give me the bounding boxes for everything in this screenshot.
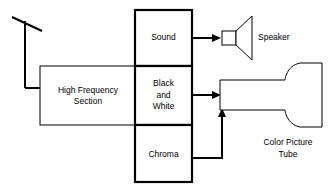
speaker-horn <box>236 16 252 60</box>
picture-tube-label-line1: Color Picture <box>263 137 312 147</box>
high-frequency-label-line1: High Frequency <box>58 85 119 95</box>
tv-receiver-block-diagram: High Frequency Section Sound Black and W… <box>0 0 336 192</box>
antenna-crossbar <box>12 17 42 31</box>
diagram-canvas: High Frequency Section Sound Black and W… <box>0 0 336 192</box>
black-and-white-to-tube-arrow <box>192 91 221 99</box>
black-and-white-label-line2: and <box>156 90 170 100</box>
chroma-to-tube-arrow <box>192 108 226 158</box>
high-frequency-label-line2: Section <box>74 96 103 106</box>
picture-tube-label-line2: Tube <box>278 149 297 159</box>
chroma-label: Chroma <box>148 149 179 159</box>
black-and-white-label-line1: Black <box>153 78 175 88</box>
speaker-icon <box>222 16 252 60</box>
antenna-icon <box>12 17 42 88</box>
speaker-label: Speaker <box>258 32 290 42</box>
sound-to-speaker-arrow <box>192 34 221 42</box>
black-and-white-label-line3: White <box>153 101 175 111</box>
speaker-body <box>222 31 236 45</box>
sound-label: Sound <box>151 32 176 42</box>
color-picture-tube-icon <box>220 63 322 127</box>
picture-tube-outline <box>220 63 322 127</box>
